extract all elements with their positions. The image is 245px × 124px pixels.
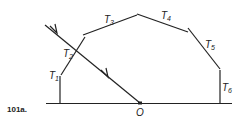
origin-point (138, 102, 142, 105)
label-t6: T6 (222, 82, 232, 94)
diagram-canvas: T1 T2 T3 T4 T5 T6 O 101a. (0, 0, 245, 124)
segment-t5 (188, 28, 220, 69)
label-t2: T2 (63, 48, 73, 60)
label-t3: T3 (104, 14, 114, 26)
label-t5: T5 (205, 39, 215, 51)
figure-label: 101a. (7, 105, 27, 114)
label-t1: T1 (49, 70, 59, 82)
diagram: T1 T2 T3 T4 T5 T6 O 101a. (0, 0, 245, 124)
label-t4: T4 (161, 10, 171, 22)
ray-line (45, 25, 140, 103)
origin-label: O (136, 107, 144, 118)
